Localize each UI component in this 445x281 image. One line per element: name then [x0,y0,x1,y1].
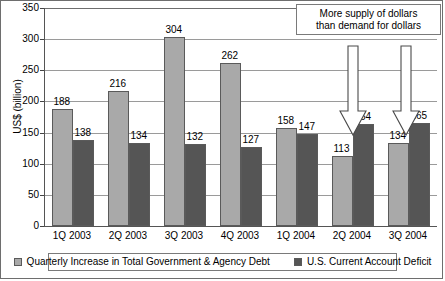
legend-swatch-icon [14,258,22,266]
bar-value-label: 262 [222,51,239,61]
gridline-200 [45,101,437,102]
chart-container: US$ (billion) 350 300 250 200 150 100 50… [0,0,443,279]
arrow-2q-2004 [338,45,368,137]
legend-swatch-icon [294,258,302,266]
bar-1q-2004-series-0 [276,128,297,226]
bar-1q-2003-series-0 [52,109,73,226]
bar-2q-2004-series-0 [332,156,353,226]
bar-value-label: 188 [54,97,71,107]
x-tick-label-1q-2004: 1Q 2004 [268,231,324,241]
y-tick-label-200: 200 [9,96,39,106]
bar-value-label: 147 [299,122,316,132]
y-tick-label-0: 0 [9,221,39,231]
legend-item-government-debt[interactable]: Quarterly Increase in Total Government &… [14,257,270,267]
y-tick-label-50: 50 [9,190,39,200]
bar-value-label: 113 [334,144,350,154]
y-tick-label-250: 250 [9,65,39,75]
bar-2q-2004-series-1 [353,124,374,226]
legend-label: U.S. Current Account Deficit [307,257,432,267]
bar-3q-2003-series-0 [164,37,185,226]
bar-3q-2004-series-0 [388,143,409,226]
bar-3q-2004-series-1 [409,123,430,226]
bar-value-label: 138 [75,128,92,138]
plot-area: 1881382161343041322621271581471131641341… [44,8,437,227]
bar-value-label: 304 [166,25,183,35]
x-tick-label-3q-2003: 3Q 2003 [156,231,212,241]
gridline-250 [45,70,437,71]
x-tick-label-2q-2003: 2Q 2003 [100,231,156,241]
gridline-300 [45,39,437,40]
legend-item-current-account-deficit[interactable]: U.S. Current Account Deficit [294,257,432,267]
x-tick-label-3q-2004: 3Q 2004 [380,231,436,241]
arrow-3q-2004 [391,45,421,137]
bar-4q-2003-series-0 [220,63,241,226]
bar-2q-2003-series-0 [108,91,129,226]
gridline-150 [45,133,437,134]
y-tick-label-100: 100 [9,159,39,169]
annotation-line-2: than demand for dollars [316,20,421,32]
bar-value-label: 216 [110,79,127,89]
bar-1q-2003-series-1 [73,140,94,226]
x-tick-label-2q-2004: 2Q 2004 [324,231,380,241]
y-tick-label-350: 350 [9,3,39,13]
bar-value-label: 127 [243,135,260,145]
bar-value-label: 134 [131,131,148,141]
x-tick-label-4q-2003: 4Q 2003 [212,231,268,241]
bar-value-label: 132 [187,132,204,142]
bar-value-label: 158 [278,116,295,126]
bar-1q-2004-series-1 [297,134,318,226]
x-tick-label-1q-2003: 1Q 2003 [44,231,100,241]
bar-4q-2003-series-1 [241,147,262,226]
y-tick-label-300: 300 [9,34,39,44]
legend-label: Quarterly Increase in Total Government &… [27,257,270,267]
chart-legend: Quarterly Increase in Total Government &… [48,253,397,271]
bar-2q-2003-series-1 [129,143,150,226]
bar-3q-2003-series-1 [185,144,206,226]
annotation-box: More supply of dollars than demand for d… [296,4,441,35]
y-tick-label-150: 150 [9,128,39,138]
annotation-line-1: More supply of dollars [320,8,418,20]
